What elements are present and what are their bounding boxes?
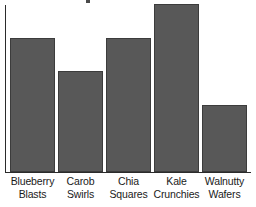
bar-chia-squares [106,38,151,172]
x-label-line1: Blueberry [11,175,55,187]
x-label-kale-crunchies: KaleCrunchies [151,175,202,201]
bar-chart: BlueberryBlastsCarobSwirlsChiaSquaresKal… [0,0,256,207]
x-label-line2: Blasts [7,188,58,201]
x-label-line1: Chia [118,175,139,187]
x-label-carob-swirls: CarobSwirls [55,175,106,201]
x-label-line2: Crunchies [151,188,202,201]
x-label-walnutty-wafers: WalnuttyWafers [199,175,250,201]
x-axis-labels: BlueberryBlastsCarobSwirlsChiaSquaresKal… [0,175,256,207]
bar-walnutty-wafers [202,105,247,172]
bar-blueberry-blasts [10,38,55,172]
x-label-line2: Swirls [55,188,106,201]
bar-carob-swirls [58,71,103,172]
bars-layer [0,0,256,173]
plot-area [0,0,256,173]
bar-kale-crunchies [154,4,199,172]
x-label-line2: Wafers [199,188,250,201]
x-label-line1: Carob [67,175,95,187]
x-label-line2: Squares [103,188,154,201]
x-label-chia-squares: ChiaSquares [103,175,154,201]
x-label-line1: Walnutty [205,175,244,187]
x-label-line1: Kale [166,175,186,187]
x-label-blueberry-blasts: BlueberryBlasts [7,175,58,201]
